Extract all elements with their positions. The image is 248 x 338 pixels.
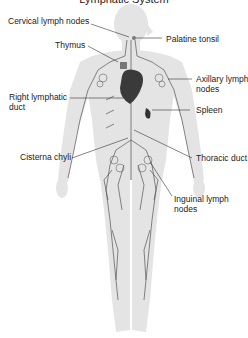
body-silhouette xyxy=(56,4,205,332)
label-spleen: Spleen xyxy=(196,105,222,115)
label-palatine-tonsil: Palatine tonsil xyxy=(166,34,219,44)
label-thymus: Thymus xyxy=(55,40,85,50)
label-thoracic-duct: Thoracic duct xyxy=(196,153,247,163)
palatine-tonsil-dot xyxy=(132,36,136,40)
body-illustration xyxy=(0,0,248,338)
label-cervical-lymph-nodes: Cervical lymph nodes xyxy=(8,16,89,26)
label-right-lymphatic-duct: Right lymphatic duct xyxy=(9,92,67,112)
label-axillary-lymph-nodes: Axillary lymph nodes xyxy=(196,74,248,94)
label-inguinal-lymph-nodes: Inguinal lymph nodes xyxy=(174,194,229,214)
thymus xyxy=(120,62,127,69)
label-cisterna-chyli: Cisterna chyli xyxy=(20,152,71,162)
